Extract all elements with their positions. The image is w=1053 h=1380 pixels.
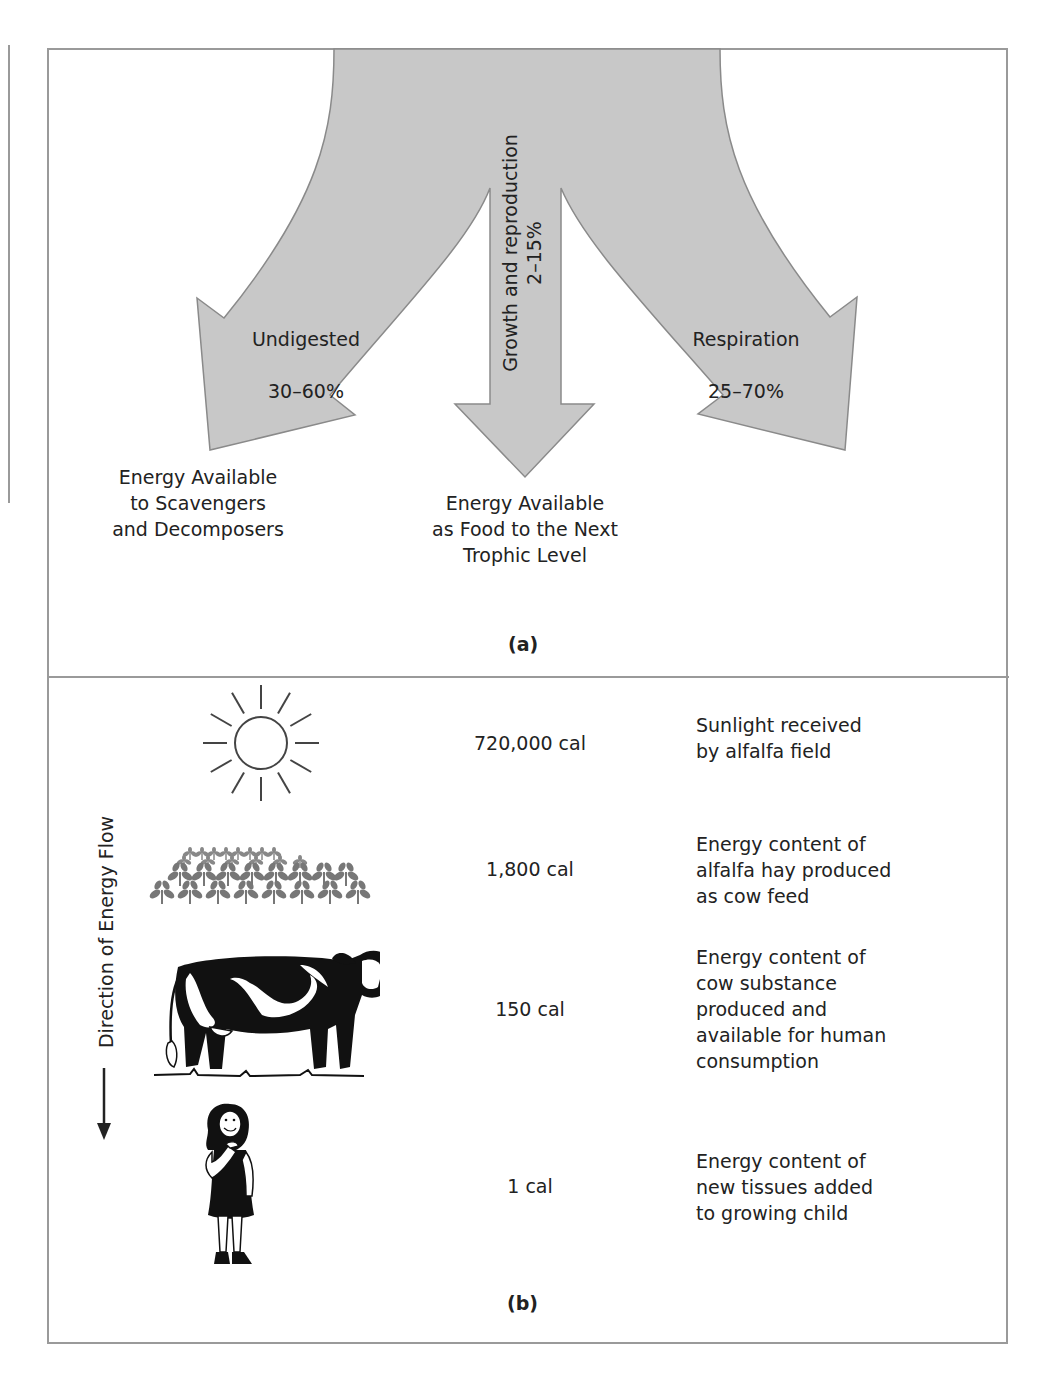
destination-next-trophic-level: Energy Available as Food to the Next Tro… [400, 490, 650, 568]
undigested-range: 30–60% [236, 378, 376, 404]
energy-value-child: 1 cal [430, 1175, 630, 1197]
energy-value-sunlight: 720,000 cal [430, 732, 630, 754]
child-icon [190, 1100, 270, 1275]
respiration-name: Respiration [676, 326, 816, 352]
destination-scavengers: Energy Available to Scavengers and Decom… [88, 464, 308, 542]
energy-value-cow: 150 cal [430, 998, 630, 1020]
undigested-name: Undigested [236, 326, 376, 352]
energy-value-alfalfa: 1,800 cal [430, 858, 630, 880]
alfalfa-icon [140, 840, 380, 910]
respiration-range: 25–70% [676, 378, 816, 404]
panel-a-label: (a) [508, 633, 538, 655]
arrow-label-growth: Growth and reproduction 2–15% [498, 103, 546, 403]
growth-range: 2–15% [522, 103, 546, 403]
description-sunlight: Sunlight received by alfalfa field [696, 712, 862, 764]
arrow-label-respiration: Respiration 25–70% [676, 300, 816, 430]
energy-flow-axis-label: Direction of Energy Flow [94, 801, 118, 1063]
sun-icon [196, 678, 326, 808]
growth-name: Growth and reproduction [498, 103, 522, 403]
description-alfalfa: Energy content of alfalfa hay produced a… [696, 831, 891, 909]
panel-b-label: (b) [507, 1292, 538, 1314]
down-arrow-icon [94, 1068, 114, 1142]
description-child: Energy content of new tissues added to g… [696, 1148, 873, 1226]
arrow-label-undigested: Undigested 30–60% [236, 300, 376, 430]
cow-icon [150, 935, 380, 1090]
description-cow: Energy content of cow substance produced… [696, 944, 886, 1074]
